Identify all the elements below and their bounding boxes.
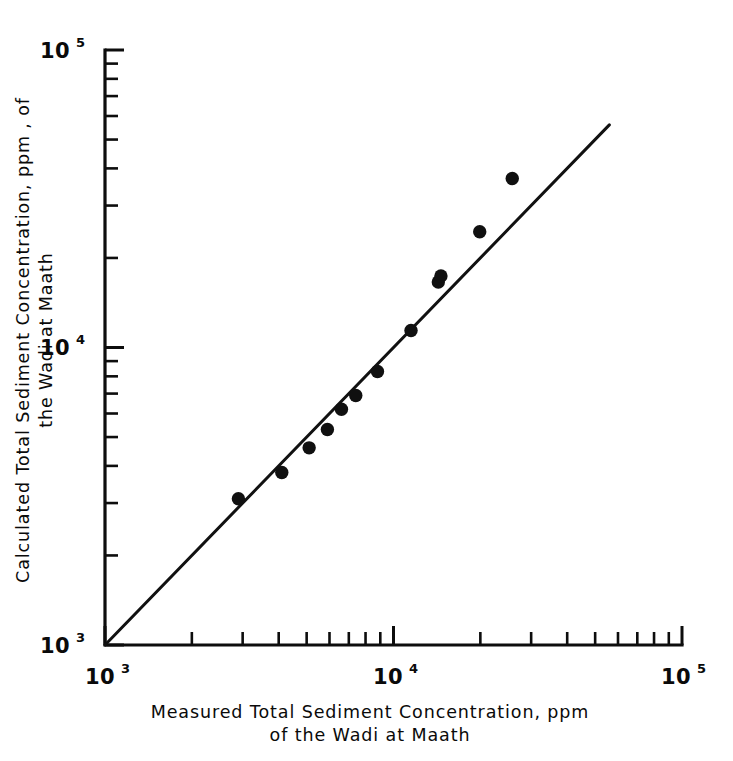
x-axis-ticks [105, 626, 682, 645]
data-point [275, 466, 288, 479]
y-tick-label-1e3-mantissa: 10 [40, 634, 70, 658]
x-tick-label-1e4-mantissa: 10 [373, 665, 403, 689]
x-tick-label-1e5-exponent: 5 [697, 661, 707, 676]
y-axis-title-line1: Calculated Total Sediment Concentration,… [13, 97, 33, 583]
data-point [473, 225, 486, 238]
data-point [371, 365, 384, 378]
y-axis-title-line2: the Wadi at Maath [36, 252, 56, 428]
data-point [232, 492, 245, 505]
data-point [434, 269, 447, 282]
reference-line-group [105, 125, 609, 645]
x-tick-label-1e5-mantissa: 10 [661, 665, 691, 689]
data-point [506, 172, 519, 185]
data-point [404, 324, 417, 337]
x-tick-label-1e4-exponent: 4 [409, 661, 419, 676]
x-tick-label-1e3-mantissa: 10 [85, 665, 115, 689]
x-tick-labels: 10 3 10 4 10 5 [85, 661, 707, 689]
scatter-plot: 10 5 10 4 10 3 10 3 10 4 10 5 Measured T… [0, 0, 733, 761]
data-point [349, 389, 362, 402]
y-tick-label-1e4-exponent: 4 [76, 332, 86, 347]
x-tick-label-1e3-exponent: 3 [121, 661, 131, 676]
data-point [302, 441, 315, 454]
data-points [232, 172, 519, 506]
y-axis-ticks [105, 50, 124, 645]
data-point [335, 403, 348, 416]
x-axis-title-line1: Measured Total Sediment Concentration, p… [151, 702, 590, 722]
y-tick-label-1e3-exponent: 3 [76, 630, 86, 645]
y-tick-label-1e5-exponent: 5 [76, 35, 86, 50]
data-point [321, 423, 334, 436]
y-axis-title: Calculated Total Sediment Concentration,… [13, 97, 56, 583]
x-axis-title: Measured Total Sediment Concentration, p… [151, 702, 590, 745]
line-of-agreement [105, 125, 609, 645]
figure-container: 10 5 10 4 10 3 10 3 10 4 10 5 Measured T… [0, 0, 733, 761]
x-axis-title-line2: of the Wadi at Maath [270, 725, 471, 745]
y-tick-label-1e5-mantissa: 10 [40, 39, 70, 63]
